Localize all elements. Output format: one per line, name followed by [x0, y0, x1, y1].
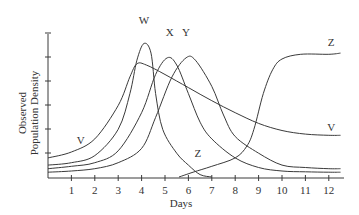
x-tick-label: 8 — [232, 184, 238, 196]
curve-label-x: X — [166, 26, 174, 38]
curve-label-right-z: Z — [328, 36, 335, 48]
x-tick-label: 11 — [300, 184, 311, 196]
y-axis-title-line2: Population Density — [28, 70, 40, 155]
x-tick-label: 6 — [186, 184, 192, 196]
x-tick-label: 5 — [162, 184, 168, 196]
x-tick-label: 12 — [323, 184, 334, 196]
x-tick-label: 10 — [277, 184, 289, 196]
y-axis-title: Observed Population Density — [16, 70, 40, 155]
y-axis-title-line1: Observed — [16, 91, 28, 134]
population-density-chart: VWXYZZV 123456789101112 Days Observed Po… — [0, 0, 359, 215]
curve-label-w: W — [139, 14, 150, 26]
curve-labels: VWXYZZV — [77, 14, 335, 158]
curve-v — [48, 63, 341, 158]
curve-label-right-v: V — [327, 121, 335, 133]
x-axis-title: Days — [170, 197, 193, 209]
x-tick-label: 2 — [92, 184, 98, 196]
curve-label-v: V — [77, 134, 85, 146]
x-tick-label: 1 — [69, 184, 75, 196]
curve-label-y: Y — [182, 26, 190, 38]
x-tick-label: 4 — [139, 184, 145, 196]
x-tick-label: 7 — [209, 184, 215, 196]
x-tick-label: 9 — [256, 184, 262, 196]
x-tick-label: 3 — [115, 184, 121, 196]
curve-label-z: Z — [194, 147, 201, 159]
